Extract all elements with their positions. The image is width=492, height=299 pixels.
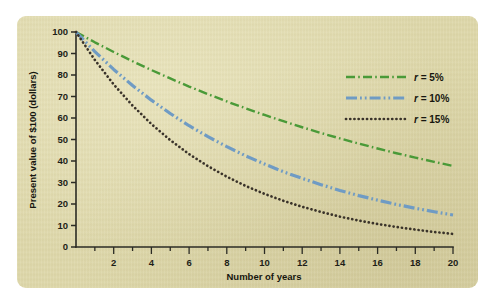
x-tick-label: 4 — [149, 257, 155, 268]
x-tick-group: 2468101214161820 — [95, 247, 458, 268]
x-tick-label: 20 — [448, 257, 459, 268]
x-axis-title: Number of years — [227, 271, 302, 282]
x-tick-label: 2 — [111, 257, 116, 268]
legend-value: = 10% — [418, 93, 450, 104]
x-tick-label: 12 — [297, 257, 308, 268]
y-tick-label: 30 — [57, 177, 68, 188]
y-tick-label: 10 — [57, 220, 68, 231]
y-tick-label: 20 — [57, 198, 68, 209]
legend-label: r = 5% — [414, 72, 444, 83]
x-tick-label: 10 — [259, 257, 270, 268]
x-tick-label: 8 — [224, 257, 229, 268]
y-tick-label: 70 — [57, 91, 68, 102]
y-tick-label: 50 — [57, 134, 68, 145]
legend-label: r = 10% — [414, 93, 449, 104]
series-line-r-10 — [76, 32, 453, 215]
y-tick-label: 90 — [57, 48, 68, 59]
legend-label: r = 15% — [414, 114, 449, 125]
legend-value: = 5% — [418, 72, 444, 83]
legend-value: = 15% — [418, 114, 450, 125]
present-value-line-chart: 0102030405060708090100 2468101214161820 … — [17, 16, 478, 288]
x-tick-label: 14 — [335, 257, 346, 268]
y-tick-label: 80 — [57, 69, 68, 80]
figure-root: 0102030405060708090100 2468101214161820 … — [0, 0, 492, 299]
x-tick-label: 6 — [186, 257, 191, 268]
x-tick-label: 18 — [410, 257, 421, 268]
series-group — [76, 32, 453, 234]
y-tick-label: 100 — [52, 26, 68, 37]
y-tick-label: 60 — [57, 112, 68, 123]
y-tick-label: 40 — [57, 155, 68, 166]
legend-group: r = 5%r = 10%r = 15% — [346, 72, 449, 125]
y-axis-title: Present value of $100 (dollars) — [27, 71, 38, 208]
axis-group — [76, 32, 453, 247]
y-tick-group: 0102030405060708090100 — [52, 26, 76, 252]
y-tick-label: 0 — [63, 241, 68, 252]
chart-panel: 0102030405060708090100 2468101214161820 … — [17, 16, 478, 288]
x-tick-label: 16 — [372, 257, 383, 268]
